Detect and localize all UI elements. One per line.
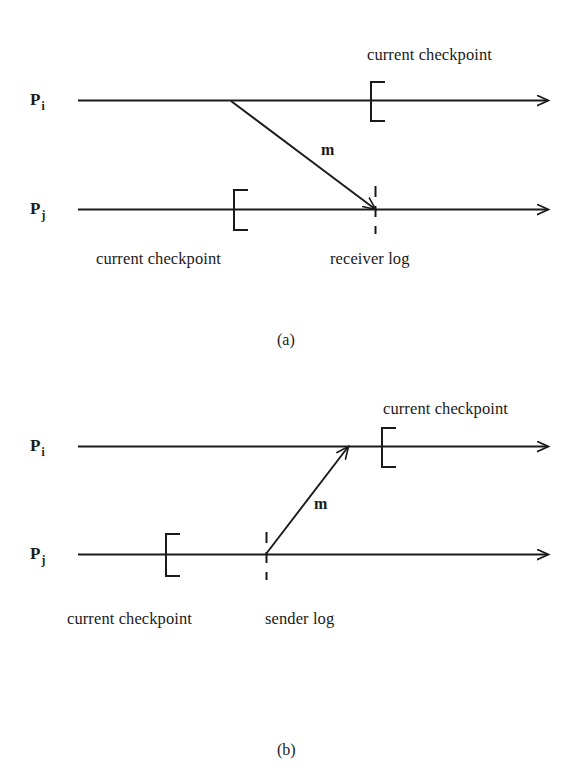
panel-b-checkpoint-bottom-label: current checkpoint (67, 611, 192, 628)
panel-b-message-arrow (266, 447, 348, 554)
panel-a-caption: (a) (277, 332, 295, 348)
panel-b-caption: (b) (277, 742, 296, 758)
panel-b-process-j-subscript: j (41, 554, 45, 566)
panel-b-process-j-label: Pj (30, 545, 44, 562)
panel-a-checkpoint-bottom-label: current checkpoint (96, 251, 221, 268)
panel-a-checkpoint-bracket-pi (371, 82, 385, 121)
figure-lines-svg (0, 0, 580, 778)
panel-a-graphics (78, 82, 548, 234)
panel-a-process-j-subscript: j (41, 209, 45, 221)
panel-a-message-label: m (321, 142, 334, 158)
figure-root: Pi Pj current checkpoint current checkpo… (0, 0, 580, 778)
panel-b-graphics (78, 428, 548, 580)
panel-a-process-j-label: Pj (30, 200, 44, 217)
panel-a-receiver-log-label: receiver log (330, 251, 410, 268)
panel-a-message-arrow (231, 101, 375, 209)
panel-a-process-i-label: Pi (30, 91, 44, 108)
panel-b-sender-log-label: sender log (265, 611, 334, 628)
panel-b-message-label: m (314, 496, 327, 512)
panel-a-process-i-subscript: i (41, 100, 44, 112)
panel-b-checkpoint-bracket-pi (382, 428, 396, 467)
panel-b-process-i-subscript: i (41, 446, 44, 458)
panel-b-checkpoint-top-label: current checkpoint (383, 401, 508, 418)
panel-b-process-i-label: Pi (30, 437, 44, 454)
panel-a-checkpoint-top-label: current checkpoint (367, 47, 492, 64)
